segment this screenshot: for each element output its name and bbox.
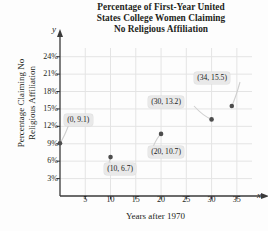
- data-point: [159, 132, 164, 137]
- y-axis-title-line-2: Religious Affiliation: [27, 8, 38, 198]
- data-point-label: (30, 13.2): [148, 96, 184, 108]
- x-axis-tick-label: 10: [107, 196, 115, 204]
- x-axis-tick-label: 30: [208, 196, 216, 204]
- data-point-label: (0, 9.1): [64, 114, 93, 126]
- x-axis-title: Years after 1970: [58, 211, 253, 221]
- x-axis-tick-label: 20: [157, 196, 165, 204]
- callout-connector: [232, 82, 240, 106]
- y-axis-title: Percentage Claiming No Religious Affilia…: [16, 8, 38, 198]
- x-axis-tick-label: 35: [233, 196, 241, 204]
- data-point: [58, 141, 63, 146]
- data-point-label: (20, 10.7): [148, 146, 184, 158]
- data-point: [229, 104, 234, 109]
- data-point: [108, 155, 113, 160]
- callout-connector: [194, 106, 212, 119]
- x-axis-tick-label: 25: [182, 196, 190, 204]
- x-axis-tick-label: 5: [83, 196, 87, 204]
- chart-figure: Percentage of First-Year United States C…: [0, 0, 268, 231]
- data-point: [209, 117, 214, 122]
- data-point-label: (10, 6.7): [104, 163, 136, 175]
- x-axis-tick-label: 15: [132, 196, 140, 204]
- y-axis-title-line-1: Percentage Claiming No: [16, 8, 27, 198]
- x-axis-tick-labels: 5101520253035: [0, 196, 268, 208]
- data-point-label: (34, 15.5): [194, 72, 230, 84]
- callout-connector: [60, 124, 69, 143]
